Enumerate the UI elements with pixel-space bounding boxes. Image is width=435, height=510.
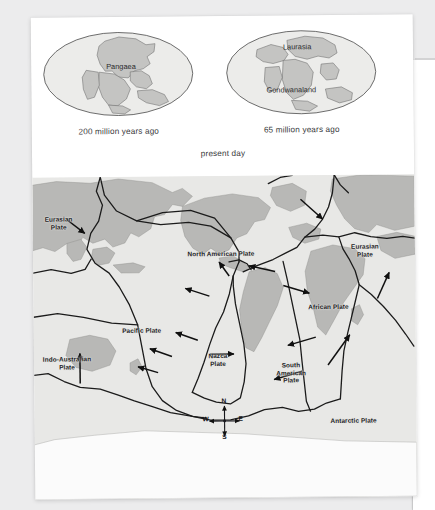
laurasia-gondwanaland-globe: Laurasia Gondwanaland <box>225 29 378 116</box>
continental-drift-globes: Pangaea <box>31 14 414 168</box>
compass-label-west: W <box>203 415 209 422</box>
plate-label-eurasian-east: Eurasian Plate <box>339 242 391 258</box>
plate-label-south-american: South American Plate <box>262 361 320 384</box>
globe-label-pangaea: Pangaea <box>106 62 137 71</box>
background-sheet-top-strip <box>415 58 435 60</box>
plate-label-african: African Plate <box>299 303 357 311</box>
compass-label-north: N <box>221 397 226 404</box>
caption-present-day: present day <box>143 148 303 159</box>
plate-label-eurasian-west: Eurasian Plate <box>35 215 83 231</box>
plate-label-nazca: Nazca Plate <box>196 352 240 368</box>
compass-label-east: E <box>239 415 243 422</box>
pangaea-globe: Pangaea <box>42 30 195 117</box>
plate-label-north-american: North American Plate <box>173 250 269 258</box>
plate-label-indo-australian: Indo-Australian Plate <box>32 355 102 371</box>
compass-label-south: S <box>222 433 226 440</box>
caption-65-million: 65 million years ago <box>222 124 382 135</box>
world-plate-map: Eurasian Plate North American Plate Eura… <box>32 174 417 500</box>
plate-label-pacific: Pacific Plate <box>110 326 174 334</box>
compass-rose: N S E W <box>201 398 247 444</box>
plate-label-antarctic: Antarctic Plate <box>321 416 387 424</box>
figure-page: Pangaea <box>31 14 418 500</box>
caption-200-million: 200 million years ago <box>39 126 199 137</box>
globe-label-laurasia: Laurasia <box>283 42 312 51</box>
globe-label-gondwanaland: Gondwanaland <box>266 85 316 94</box>
